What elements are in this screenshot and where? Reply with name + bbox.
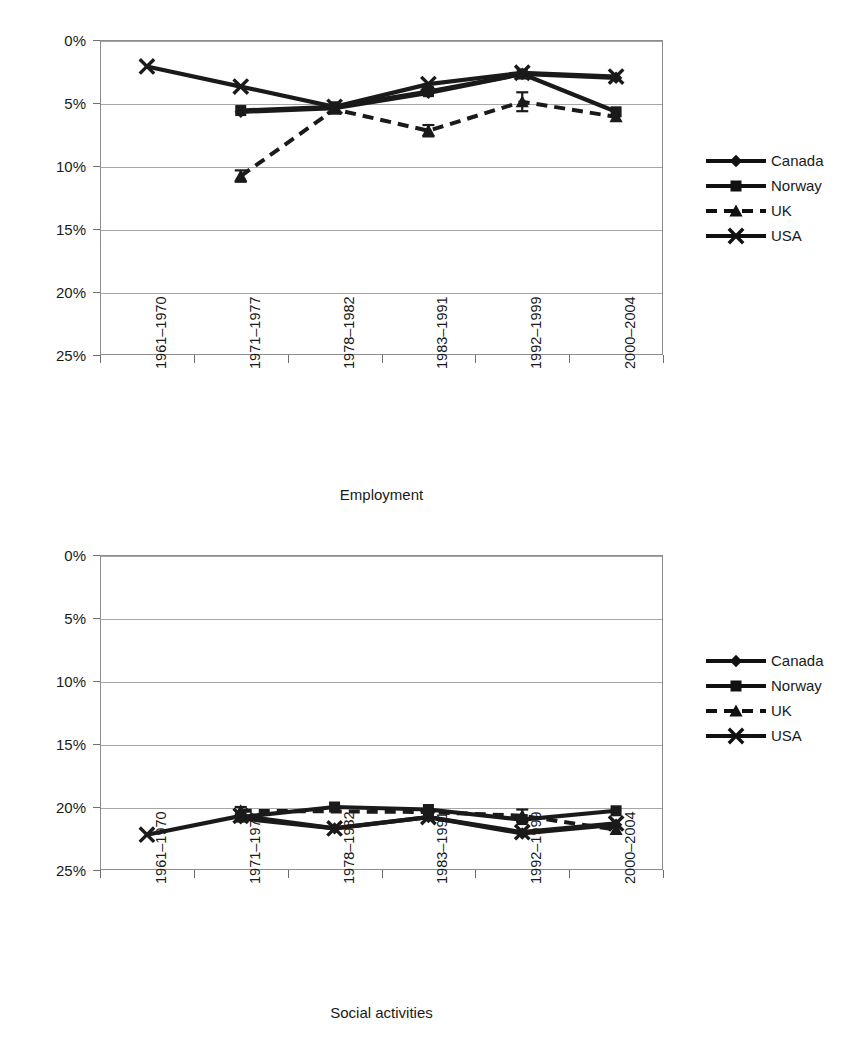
legend-item-usa[interactable]: USA [705, 223, 824, 248]
x-axis-tick-label: 1992–1999 [529, 811, 544, 884]
legend-label: Canada [771, 153, 824, 168]
x-axis-tick-label: 1971–1977 [248, 811, 263, 884]
square-marker [731, 180, 742, 191]
employment-plot-wrap: 25%20%15%10%5%0%1961–19701971–19771978–1… [0, 0, 849, 523]
y-tick-mark [93, 355, 100, 356]
x-tick-mark [663, 355, 664, 363]
legend-key-cross-icon [705, 726, 767, 746]
y-axis-tick-label: 20% [0, 800, 86, 815]
y-tick-mark [93, 744, 100, 745]
x-tick-mark [663, 870, 664, 878]
chart-employment: 25%20%15%10%5%0%1961–19701971–19771978–1… [0, 0, 849, 523]
legend-key-diamond-icon [705, 651, 767, 671]
y-tick-mark [93, 807, 100, 808]
x-axis-tick-label: 1961–1970 [154, 296, 169, 369]
legend-key-cross-icon [705, 226, 767, 246]
legend-item-uk[interactable]: UK [705, 698, 824, 723]
x-axis-tick-label: 1992–1999 [529, 296, 544, 369]
social-series-layer [0, 523, 849, 1046]
legend-label: Norway [771, 678, 822, 693]
x-tick-mark [382, 355, 383, 363]
legend-label: USA [771, 728, 802, 743]
y-tick-mark [93, 555, 100, 556]
legend-key-triangle-icon [705, 201, 767, 221]
x-axis-tick-label: 2000–2004 [623, 296, 638, 369]
x-tick-mark [194, 870, 195, 878]
y-axis-tick-label: 10% [0, 159, 86, 174]
diamond-marker [730, 654, 742, 666]
y-axis-tick-label: 0% [0, 548, 86, 563]
legend-label: USA [771, 228, 802, 243]
x-axis-tick-label: 1961–1970 [154, 811, 169, 884]
employment-axis-title: Employment [100, 487, 663, 503]
legend-key-square-icon [705, 176, 767, 196]
x-tick-mark [100, 870, 101, 878]
legend-item-norway[interactable]: Norway [705, 673, 824, 698]
x-tick-mark [288, 355, 289, 363]
chart-social-activities: 25%20%15%10%5%0%1961–19701971–19771978–1… [0, 523, 849, 1046]
y-axis-tick-label: 5% [0, 611, 86, 626]
square-marker [731, 680, 742, 691]
legend-item-norway[interactable]: Norway [705, 173, 824, 198]
diamond-marker [730, 154, 742, 166]
y-axis-tick-label: 25% [0, 863, 86, 878]
y-axis-tick-label: 25% [0, 348, 86, 363]
legend-item-canada[interactable]: Canada [705, 648, 824, 673]
legend-key-triangle-icon [705, 701, 767, 721]
y-axis-tick-label: 5% [0, 96, 86, 111]
legend-label: Norway [771, 178, 822, 193]
legend-key-square-icon [705, 676, 767, 696]
y-axis-tick-label: 15% [0, 222, 86, 237]
employment-series-layer [0, 0, 849, 523]
legend-key-diamond-icon [705, 151, 767, 171]
x-axis-tick-label: 1983–1991 [435, 296, 450, 369]
x-tick-mark [382, 870, 383, 878]
y-tick-mark [93, 229, 100, 230]
x-axis-tick-label: 1978–1982 [342, 296, 357, 369]
y-tick-mark [93, 618, 100, 619]
x-axis-tick-label: 1983–1991 [435, 811, 450, 884]
y-tick-mark [93, 40, 100, 41]
x-tick-mark [475, 870, 476, 878]
legend-item-uk[interactable]: UK [705, 198, 824, 223]
social-axis-title: Social activities [100, 1005, 663, 1021]
x-axis-tick-label: 2000–2004 [623, 811, 638, 884]
y-tick-mark [93, 292, 100, 293]
x-axis-tick-label: 1971–1977 [248, 296, 263, 369]
y-tick-mark [93, 870, 100, 871]
x-tick-mark [475, 355, 476, 363]
y-axis-tick-label: 10% [0, 674, 86, 689]
x-tick-mark [194, 355, 195, 363]
y-tick-mark [93, 681, 100, 682]
square-marker [235, 105, 246, 116]
legend-item-canada[interactable]: Canada [705, 148, 824, 173]
legend-label: UK [771, 703, 792, 718]
y-axis-tick-label: 20% [0, 285, 86, 300]
y-axis-tick-label: 0% [0, 33, 86, 48]
x-tick-mark [100, 355, 101, 363]
x-axis-tick-label: 1978–1982 [342, 811, 357, 884]
x-tick-mark [288, 870, 289, 878]
y-tick-mark [93, 166, 100, 167]
y-tick-mark [93, 103, 100, 104]
social-legend: CanadaNorwayUKUSA [705, 648, 824, 748]
legend-label: UK [771, 203, 792, 218]
social-plot-wrap: 25%20%15%10%5%0%1961–19701971–19771978–1… [0, 523, 849, 1046]
y-axis-tick-label: 15% [0, 737, 86, 752]
legend-item-usa[interactable]: USA [705, 723, 824, 748]
employment-legend: CanadaNorwayUKUSA [705, 148, 824, 248]
series-line-uk [241, 102, 616, 176]
legend-label: Canada [771, 653, 824, 668]
x-tick-mark [569, 870, 570, 878]
square-marker [611, 805, 622, 816]
x-tick-mark [569, 355, 570, 363]
